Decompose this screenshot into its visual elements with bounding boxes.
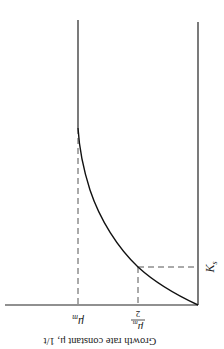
ks-label: Ks bbox=[203, 261, 219, 273]
mu-half-label: μm bbox=[133, 319, 145, 334]
y-axis-label: Growth rate constant μ, 1/t bbox=[44, 336, 157, 347]
mu-m-label: μm bbox=[72, 313, 85, 329]
mu-half-den: 2 bbox=[136, 309, 141, 319]
monod-chart: μm μm 2 Ks Growth rate constant μ, 1/t bbox=[0, 0, 224, 349]
